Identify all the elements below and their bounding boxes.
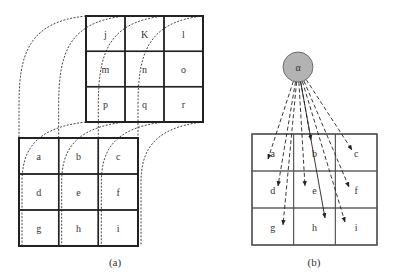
alpha-label: α [295, 62, 301, 73]
cell-label: e [76, 187, 81, 198]
cell-label: a [37, 151, 42, 162]
cell-label: c [116, 151, 121, 162]
top-grid: jKlmnopqr [86, 16, 203, 122]
arrow-to-i [302, 81, 345, 222]
connection-curve-top [19, 16, 86, 246]
cell-label: h [76, 223, 81, 234]
cell-label: q [142, 99, 147, 110]
arrow-to-c [306, 80, 352, 150]
cell-label: i [117, 223, 120, 234]
cell-label: b [76, 151, 81, 162]
cell-label: i [355, 222, 358, 233]
cell-label: r [182, 99, 186, 110]
connection-curve-top [59, 16, 125, 246]
cell-label: f [354, 185, 358, 196]
cell-label: o [181, 64, 186, 75]
connection-curve-top [138, 16, 203, 246]
panel-b: abcdefghi α (b) [252, 52, 377, 269]
cell-label: p [103, 99, 108, 110]
diagram-canvas: jKlmnopqr abcdefghi (a) abcdefghi α (b) [0, 0, 394, 274]
cell-label: l [182, 29, 185, 40]
cell-label: K [141, 29, 149, 40]
cell-label: j [103, 29, 107, 40]
cell-label: g [36, 223, 41, 234]
cell-label: d [36, 187, 41, 198]
bottom-grid: abcdefghi [19, 138, 138, 246]
arrow-to-g [283, 82, 297, 225]
cell-label: h [312, 222, 317, 233]
cell-label: c [354, 148, 359, 159]
caption-b: (b) [308, 256, 321, 269]
cell-label: f [116, 187, 120, 198]
connection-curve-bottom [141, 122, 203, 246]
cell-label: g [270, 222, 275, 233]
dashed-connection-curves [19, 16, 203, 246]
alpha-node: α [283, 52, 313, 82]
arrows [268, 80, 352, 225]
caption-a: (a) [109, 256, 122, 269]
panel-a: jKlmnopqr abcdefghi (a) [19, 16, 203, 269]
connection-curve-top [98, 16, 164, 246]
cell-label: d [270, 185, 275, 196]
cell-label: n [142, 64, 147, 75]
cell-label: a [271, 148, 276, 159]
cell-label: m [102, 64, 110, 75]
cell-label: e [312, 185, 317, 196]
